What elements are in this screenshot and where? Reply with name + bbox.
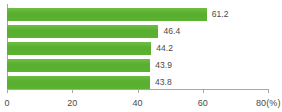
axis-tick-80 bbox=[268, 89, 269, 93]
bar-value-label-4: 43.8 bbox=[155, 76, 172, 89]
axis-tick-label-80-with-unit: 80(%) bbox=[256, 98, 281, 109]
axis-tick-label-20: 20 bbox=[67, 98, 77, 109]
bar-series-value-3 bbox=[7, 59, 150, 72]
bar-series-value-4 bbox=[7, 76, 150, 89]
axis-tick-20 bbox=[72, 89, 73, 93]
axis-tick-60 bbox=[203, 89, 204, 93]
axis-tick-label-40: 40 bbox=[132, 98, 142, 109]
axis-tick-label-0: 0 bbox=[4, 98, 9, 109]
bar-value-label-3: 43.9 bbox=[155, 59, 172, 72]
bar-series-value-0 bbox=[7, 8, 207, 21]
bar-value-label-2: 44.2 bbox=[156, 42, 173, 55]
bar-value-label-0: 61.2 bbox=[212, 8, 229, 21]
axis-tick-label-60: 60 bbox=[198, 98, 208, 109]
axis-tick-40 bbox=[138, 89, 139, 93]
bar-series-value-1 bbox=[7, 25, 158, 38]
axis-tick-0 bbox=[7, 89, 8, 93]
horizontal-bar-chart: 61.2 46.4 44.2 43.9 43.8 0 20 40 60 80(%… bbox=[0, 0, 282, 112]
bar-series-value-2 bbox=[7, 42, 151, 55]
bar-value-label-1: 46.4 bbox=[163, 25, 180, 38]
plot-area: 61.2 46.4 44.2 43.9 43.8 0 20 40 60 80(%… bbox=[7, 4, 268, 89]
